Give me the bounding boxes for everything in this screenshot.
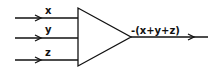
- summing-amplifier-diagram: x y z -(x+y+z): [0, 0, 217, 72]
- input-x: x: [15, 5, 78, 21]
- diagram-canvas: x y z -(x+y+z): [0, 0, 217, 72]
- input-y: y: [15, 24, 78, 41]
- input-label-x: x: [45, 5, 52, 16]
- input-label-y: y: [45, 24, 52, 35]
- input-z: z: [15, 47, 78, 63]
- output: -(x+y+z): [131, 25, 208, 40]
- input-label-z: z: [45, 47, 51, 58]
- output-label: -(x+y+z): [131, 25, 180, 36]
- amplifier-triangle: [78, 8, 131, 66]
